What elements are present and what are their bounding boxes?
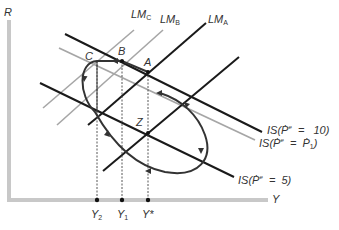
is5-val: 5): [281, 174, 291, 186]
isp1-close: ): [314, 137, 318, 149]
tick-y2: Y2: [91, 209, 102, 221]
is5-prefix: IS(: [238, 174, 252, 186]
tick-y1: Y1: [117, 209, 128, 221]
tick-y1-sub: 1: [124, 214, 128, 221]
lm-b-sub: B: [175, 19, 180, 26]
y-axis-label: R: [4, 7, 12, 18]
is-5-label: IS(Ṗe = 5): [238, 174, 291, 186]
is5-sup: e: [259, 174, 262, 180]
is5-eq: =: [269, 174, 275, 186]
x-axis-label: Y: [272, 194, 279, 205]
isp1-eq: =: [290, 137, 296, 149]
lm-a-text: LM: [208, 13, 223, 25]
lm-c-sub: C: [146, 14, 151, 21]
lm-a-line: [99, 23, 206, 116]
point-c-label: C: [85, 51, 93, 62]
lm-z-line: [103, 57, 239, 171]
tick-ystar: Y*: [142, 209, 154, 220]
lm-a-sub: A: [223, 19, 228, 26]
adjustment-path: [82, 61, 207, 173]
is-10-label: IS(Ṗe = 10): [267, 124, 329, 136]
is10-eq: =: [298, 124, 304, 136]
is-p1-label: IS(Ṗe = Ṗ1): [259, 137, 317, 150]
point-z-label: Z: [136, 117, 143, 128]
is10-val: 10): [313, 124, 329, 136]
is10-sup: e: [288, 124, 291, 130]
points: [95, 59, 150, 202]
diagram-canvas: [0, 0, 339, 230]
lm-b-label: LMB: [160, 14, 180, 26]
lm-c-text: LM: [131, 8, 146, 20]
is10-prefix: IS(: [267, 124, 281, 136]
tick-y2-sub: 2: [98, 214, 102, 221]
point-b-label: B: [118, 46, 125, 57]
lm-a-label: LMA: [208, 14, 228, 26]
is-5-line: [40, 83, 234, 177]
lm-b-line: [57, 30, 163, 125]
isp1-prefix: IS(: [259, 137, 273, 149]
is-lm-diagram: R Y LMC LMB LMA A B C Z IS(Ṗe = 10) IS(Ṗ…: [0, 0, 339, 230]
lm-b-text: LM: [160, 13, 175, 25]
axes: [7, 20, 268, 200]
lm-c-label: LMC: [131, 9, 151, 21]
isp1-val: Ṗ: [302, 137, 309, 149]
point-a-label: A: [144, 57, 151, 68]
isp1-sup: e: [280, 137, 283, 143]
is-10-line: [65, 34, 262, 132]
